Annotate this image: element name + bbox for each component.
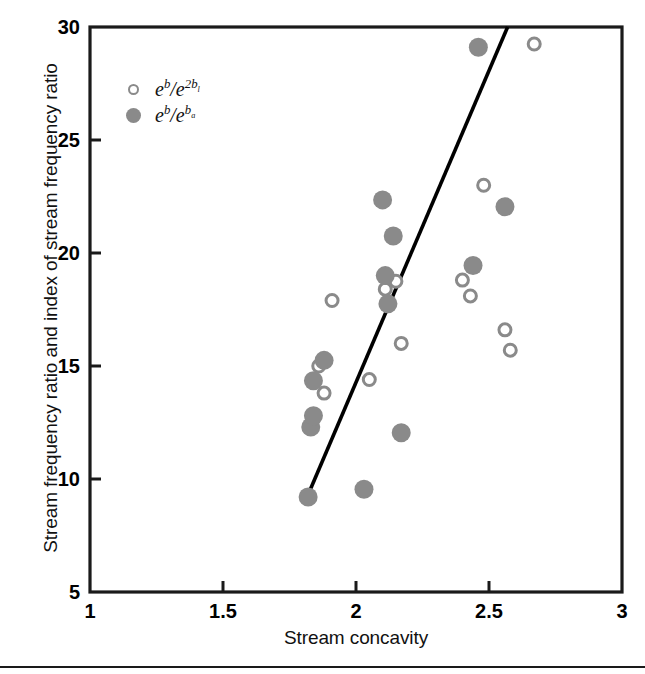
data-point [499, 324, 511, 336]
legend: eb/e2bl eb/eba [122, 76, 200, 128]
y-tick-label: 20 [22, 243, 80, 263]
data-point [392, 423, 411, 442]
data-point [528, 38, 540, 50]
y-tick-label: 25 [22, 130, 80, 150]
x-axis-title: Stream concavity [90, 627, 622, 649]
y-axis-title: Stream frequency ratio and index of stre… [34, 12, 68, 604]
y-tick-label: 30 [22, 17, 80, 37]
data-point [395, 337, 407, 349]
data-point [495, 197, 514, 216]
legend-label-series-1: eb/e2bl [155, 77, 200, 101]
footer-divider [0, 666, 645, 668]
data-point [318, 387, 330, 399]
data-point [363, 374, 375, 386]
data-point [326, 294, 338, 306]
data-point [304, 371, 323, 390]
x-tick-label: 2.5 [459, 601, 519, 621]
data-point [504, 344, 516, 356]
x-tick-label: 3 [592, 601, 645, 621]
data-point [376, 266, 395, 285]
data-point [315, 351, 334, 370]
data-point [354, 480, 373, 499]
plot-canvas [0, 0, 645, 674]
y-tick-label: 15 [22, 356, 80, 376]
y-tick-label: 10 [22, 469, 80, 489]
open-circle-marker-icon [122, 84, 144, 95]
data-point [478, 179, 490, 191]
legend-item-open-circle: eb/e2bl [122, 76, 200, 102]
x-tick-label: 2 [326, 601, 386, 621]
y-tick-label: 5 [22, 582, 80, 602]
x-tick-label: 1 [60, 601, 120, 621]
data-point [456, 274, 468, 286]
legend-label-series-2: eb/eba [155, 103, 195, 127]
data-point [304, 406, 323, 425]
scatter-plot-figure: Stream frequency ratio and index of stre… [0, 0, 645, 674]
filled-circle-marker-icon [122, 108, 144, 123]
legend-item-filled-circle: eb/eba [122, 102, 200, 128]
data-point [384, 227, 403, 246]
data-point [464, 256, 483, 275]
data-point [378, 294, 397, 313]
data-series-2 [299, 38, 515, 507]
x-tick-label: 1.5 [193, 601, 253, 621]
data-point [464, 290, 476, 302]
data-point [373, 190, 392, 209]
data-point [299, 488, 318, 507]
data-point [469, 38, 488, 57]
